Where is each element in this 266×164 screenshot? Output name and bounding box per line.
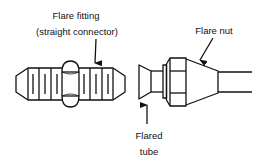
flare-nut-arrow [200,38,213,60]
flared-tube-sublabel: tube [131,146,167,157]
flare-fitting-sublabel: (straight connector) [28,26,126,37]
flared-tube-label: Flared [131,130,167,141]
flare-nut-label: Flare nut [186,25,242,36]
flare-fitting-label: Flare fitting [38,10,114,21]
flare-fitting-arrow [95,39,96,63]
flared-tube-assembly [139,58,252,106]
flare-fitting [16,61,125,107]
